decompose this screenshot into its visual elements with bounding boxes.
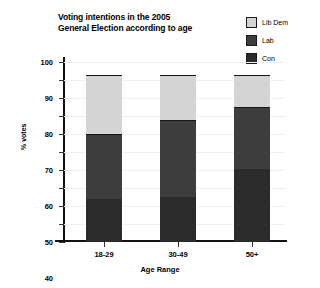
legend-item-lab: Lab bbox=[246, 33, 316, 48]
bar-segment-lib-dem bbox=[234, 75, 271, 107]
x-axis-tick-label: 50+ bbox=[246, 250, 259, 259]
y-axis-tick: 90 bbox=[59, 80, 64, 81]
y-axis-tick-label: 100 bbox=[40, 58, 53, 67]
y-axis-tick: 30 bbox=[59, 188, 64, 189]
x-axis-title: Age Range bbox=[0, 265, 320, 274]
bar-18-29 bbox=[86, 75, 122, 242]
y-axis-title: % votes bbox=[20, 124, 27, 150]
legend-label-con: Con bbox=[262, 55, 275, 62]
y-axis-tick: 60 bbox=[59, 134, 64, 135]
chart-legend: Lib Dem Lab Con bbox=[246, 15, 316, 69]
y-axis-tick: 40 bbox=[59, 170, 64, 171]
y-axis-tick: 10 bbox=[59, 224, 64, 225]
plot-area: 010203040506070809010018-2930-4950+ bbox=[63, 62, 285, 242]
y-axis-tick: 0 bbox=[59, 242, 64, 243]
bar-segment-con bbox=[234, 169, 271, 243]
bar-segment-lab bbox=[234, 107, 271, 168]
y-axis-tick-label: 40 bbox=[45, 274, 53, 283]
gridline bbox=[63, 62, 285, 63]
y-axis-tick: 20 bbox=[59, 206, 64, 207]
x-axis-tick-label: 30-49 bbox=[168, 250, 187, 259]
legend-label-lib-dem: Lib Dem bbox=[262, 19, 288, 26]
x-axis-tick bbox=[178, 242, 179, 247]
y-axis-tick-label: 90 bbox=[45, 94, 53, 103]
chart-container: Voting intentions in the 2005 General El… bbox=[0, 0, 320, 288]
x-axis-tick bbox=[104, 242, 105, 247]
y-axis-tick: 50 bbox=[59, 152, 64, 153]
legend-label-lab: Lab bbox=[262, 37, 274, 44]
bar-segment-lib-dem bbox=[160, 75, 197, 120]
y-axis-tick: 100 bbox=[59, 62, 64, 63]
x-axis-tick bbox=[252, 242, 253, 247]
bar-segment-lab bbox=[86, 134, 123, 199]
bar-50+ bbox=[234, 75, 270, 242]
bar-segment-lib-dem bbox=[86, 75, 123, 134]
bar-segment-lab bbox=[160, 120, 197, 197]
y-axis-tick-label: 50 bbox=[45, 238, 53, 247]
bar-segment-con bbox=[160, 197, 197, 242]
y-axis-tick-label: 60 bbox=[45, 202, 53, 211]
legend-swatch-lab bbox=[246, 35, 257, 46]
bar-segment-con bbox=[86, 199, 123, 242]
y-axis-tick-label: 80 bbox=[45, 130, 53, 139]
chart-title: Voting intentions in the 2005 General El… bbox=[58, 12, 228, 33]
legend-swatch-lib-dem bbox=[246, 17, 257, 28]
y-axis-tick-label: 70 bbox=[45, 166, 53, 175]
bar-30-49 bbox=[160, 75, 196, 242]
y-axis-line bbox=[63, 57, 65, 243]
x-axis-tick-label: 18-29 bbox=[94, 250, 113, 259]
y-axis-tick: 70 bbox=[59, 116, 64, 117]
legend-item-lib-dem: Lib Dem bbox=[246, 15, 316, 30]
y-axis-tick: 80 bbox=[59, 98, 64, 99]
